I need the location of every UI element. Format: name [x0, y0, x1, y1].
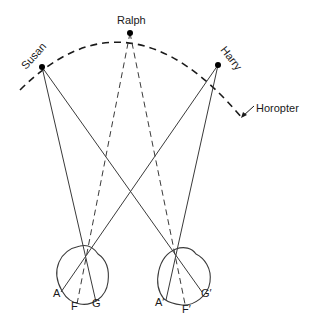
right-eye-label-g: G′	[201, 287, 212, 299]
horopter-label: Horopter	[256, 102, 299, 114]
left-eye	[57, 245, 109, 304]
left-eye-label-g: G	[92, 297, 101, 309]
harry-label: Harry	[218, 44, 244, 73]
horopter-diagram: Horopter Ralph Susan Harry A F G A′ F′ G…	[0, 0, 316, 320]
left-eye-label-f: F	[71, 300, 78, 312]
ralph-right-eye-ray	[130, 33, 185, 304]
ralph-left-eye-ray	[77, 33, 130, 304]
right-eye-label-f: F′	[182, 303, 191, 315]
susan-dot	[39, 64, 45, 70]
susan-right-eye-ray	[42, 67, 202, 292]
ralph-dot	[127, 30, 133, 36]
harry-dot	[215, 62, 221, 68]
harry-right-eye-ray	[166, 65, 218, 300]
left-eye-label-a: A	[53, 287, 61, 299]
ralph-label: Ralph	[117, 14, 146, 26]
right-eye-label-a: A′	[155, 296, 164, 308]
susan-left-eye-ray	[42, 67, 96, 302]
harry-left-eye-ray	[61, 65, 218, 292]
